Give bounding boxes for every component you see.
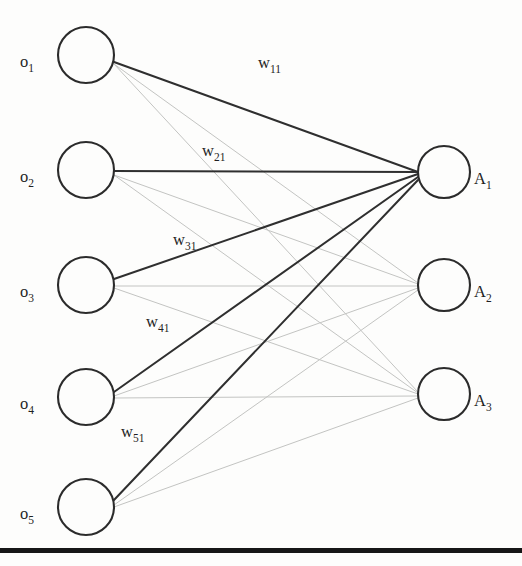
weight-label-w11: w11 [258, 53, 281, 75]
weight-label-w21: w21 [202, 141, 226, 163]
input-node-o4[interactable] [58, 369, 114, 425]
input-label-o5: o5 [20, 504, 34, 526]
weight-label-w41: w41 [146, 312, 170, 334]
output-label-A3: A3 [474, 391, 492, 413]
edge-o1-A1 [114, 62, 418, 172]
output-node-A1[interactable] [418, 146, 470, 198]
input-node-o1[interactable] [58, 27, 114, 83]
neural-network-diagram: o1o2o3o4o5A1A2A3 w11w21w31w41w51 [0, 0, 522, 566]
output-label-A1: A1 [474, 169, 492, 191]
input-label-o1: o1 [20, 52, 34, 74]
output-node-group [418, 146, 470, 420]
output-label-A2: A2 [474, 282, 492, 304]
edge-o2-A1 [114, 171, 418, 172]
page-rule [0, 548, 522, 553]
input-node-group [58, 27, 114, 535]
edge-o3-A1 [114, 174, 418, 279]
input-node-o3[interactable] [58, 257, 114, 313]
edge-o1-A2 [114, 64, 418, 283]
input-label-o3: o3 [20, 282, 34, 304]
output-node-A2[interactable] [418, 259, 470, 311]
network-canvas: o1o2o3o4o5A1A2A3 w11w21w31w41w51 [0, 0, 522, 566]
output-node-A3[interactable] [418, 368, 470, 420]
input-node-o5[interactable] [58, 479, 114, 535]
strong-edge-group [114, 62, 418, 500]
weight-label-w51: w51 [121, 422, 145, 444]
edge-o2-A2 [114, 175, 418, 284]
input-label-o2: o2 [20, 167, 34, 189]
input-node-o2[interactable] [58, 142, 114, 198]
input-label-o4: o4 [20, 394, 34, 416]
weight-label-w31: w31 [173, 230, 197, 252]
